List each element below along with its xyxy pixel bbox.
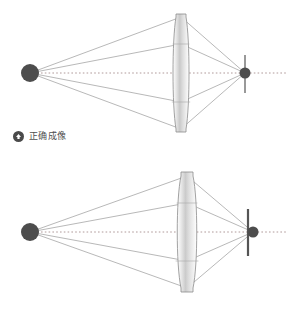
up-arrow-icon — [13, 131, 24, 142]
ray-upper-inner — [30, 44, 245, 73]
optics-diagram-page: 正确成像 — [0, 0, 290, 309]
ray-lower-inner — [30, 73, 245, 102]
lens-outline — [177, 172, 197, 292]
ray-lower-inner — [30, 232, 253, 261]
ray-upper-outer — [30, 17, 245, 73]
lens-element-correct — [172, 14, 190, 132]
ray-bundle-incorrect — [30, 176, 253, 288]
ray-lower-outer — [30, 232, 253, 288]
incorrect-focus-svg — [0, 155, 290, 309]
ray-upper-inner — [30, 203, 253, 232]
focus-point-dot — [240, 68, 251, 79]
diagram-incorrect-focus: 不正确成像 — [0, 155, 290, 309]
caption-correct-label: 正确成像 — [29, 131, 66, 142]
lens-outline — [173, 14, 189, 132]
ray-lower-outer — [30, 73, 245, 129]
object-point-dot — [21, 223, 39, 241]
lens-element-incorrect — [176, 172, 199, 292]
ray-upper-outer — [30, 176, 253, 232]
focus-point-dot — [248, 227, 259, 238]
diagram-correct-focus: 正确成像 — [0, 0, 290, 155]
object-point-dot — [21, 64, 39, 82]
caption-correct: 正确成像 — [13, 129, 66, 143]
